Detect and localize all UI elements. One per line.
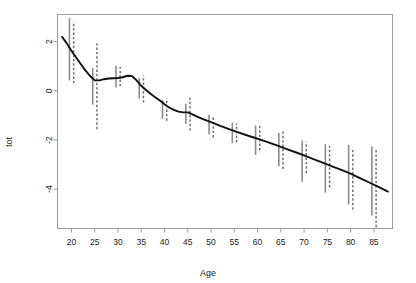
x-tick-label: 60 [253, 237, 263, 247]
x-tick-label: 80 [346, 237, 356, 247]
plot-frame [58, 15, 393, 229]
y-tick-label: -4 [45, 185, 55, 193]
x-tick-label: 40 [160, 237, 170, 247]
x-tick-label: 55 [230, 237, 240, 247]
y-tick-label: 0 [45, 88, 55, 93]
y-axis-title: tot [4, 136, 14, 146]
error-bars-solid [69, 18, 371, 215]
x-tick-label: 20 [67, 237, 77, 247]
x-axis-tick-labels: 2025303540455055606570758085 [67, 237, 379, 247]
x-tick-label: 70 [299, 237, 309, 247]
x-tick-label: 50 [206, 237, 216, 247]
y-axis-ticks [54, 42, 58, 190]
x-tick-label: 30 [113, 237, 123, 247]
chart-figure: 2025303540455055606570758085 20-2-4 Age … [0, 0, 416, 283]
y-axis-tick-labels: 20-2-4 [45, 39, 55, 193]
error-bars-dashed [74, 21, 376, 227]
chart-canvas: 2025303540455055606570758085 20-2-4 [0, 0, 416, 283]
plot-border [58, 15, 393, 229]
x-axis-title: Age [0, 268, 416, 278]
x-tick-label: 75 [323, 237, 333, 247]
x-tick-label: 45 [183, 237, 193, 247]
x-tick-label: 25 [90, 237, 100, 247]
x-tick-label: 35 [137, 237, 147, 247]
x-tick-label: 65 [276, 237, 286, 247]
x-tick-label: 85 [369, 237, 379, 247]
y-tick-label: 2 [45, 39, 55, 44]
y-tick-label: -2 [45, 136, 55, 144]
fit-curve-line [62, 37, 388, 192]
x-axis-ticks [71, 229, 373, 233]
fitted-curve [62, 37, 388, 192]
